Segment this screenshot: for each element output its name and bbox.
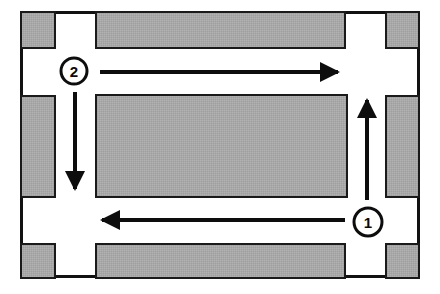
step-marker-2[interactable]: 2: [61, 58, 87, 84]
step-marker-1-label: 1: [364, 214, 372, 231]
floor-plan-flow-diagram: 1 2: [0, 0, 440, 294]
top-right-block: [386, 12, 419, 48]
middle-left-block: [21, 96, 55, 197]
center-block: [96, 95, 347, 197]
bottom-center-block: [96, 244, 345, 278]
step-marker-2-label: 2: [70, 63, 78, 80]
diagram-canvas: 1 2: [0, 0, 440, 294]
top-center-block: [96, 12, 345, 48]
bottom-left-block: [21, 244, 55, 278]
step-marker-1[interactable]: 1: [354, 208, 382, 236]
top-left-block: [21, 12, 55, 48]
bottom-right-block: [386, 244, 419, 278]
middle-right-block: [386, 96, 419, 197]
